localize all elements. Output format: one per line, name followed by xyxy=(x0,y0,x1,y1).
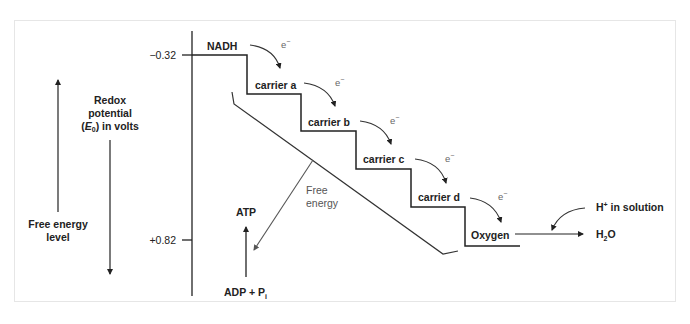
electron-arrow-5: e− xyxy=(470,190,507,222)
step-carrier-b: carrier b xyxy=(308,116,350,128)
electron-arrow-2: e− xyxy=(304,76,344,106)
free-energy-label-1: Free xyxy=(306,184,328,196)
tick-label-top: −0.32 xyxy=(149,49,176,61)
etc-diagram: Free energy level Redox potential (E0) i… xyxy=(0,0,690,324)
redox-label-1: Redox xyxy=(94,94,126,106)
electron-arrow-3: e− xyxy=(360,114,399,144)
step-carrier-d: carrier d xyxy=(418,191,460,203)
svg-text:e−: e− xyxy=(390,114,399,126)
free-energy-level-label-2: level xyxy=(46,231,69,243)
svg-text:e−: e− xyxy=(281,38,290,50)
adp-pi-label: ADP + Pi xyxy=(224,286,267,300)
tick-label-bottom: +0.82 xyxy=(149,234,176,246)
svg-text:e−: e− xyxy=(335,76,344,88)
electron-arrow-4: e− xyxy=(415,152,454,183)
svg-text:e−: e− xyxy=(498,190,507,202)
free-energy-arrow xyxy=(254,160,313,250)
electron-arrow-1: e− xyxy=(250,38,290,68)
step-carrier-c: carrier c xyxy=(363,153,405,165)
step-carrier-a: carrier a xyxy=(255,79,297,91)
svg-text:e−: e− xyxy=(445,152,454,164)
water-label: H2O xyxy=(596,228,616,242)
redox-label-2: potential xyxy=(88,107,132,119)
atp-label: ATP xyxy=(236,206,256,218)
step-oxygen: Oxygen xyxy=(471,229,510,241)
free-energy-label-2: energy xyxy=(306,197,339,209)
h-plus-label: H+ in solution xyxy=(596,201,664,213)
h-plus-arrow xyxy=(552,208,585,230)
free-energy-level-label-1: Free energy xyxy=(28,218,88,230)
step-nadh: NADH xyxy=(207,40,237,52)
redox-label-3: (E0) in volts xyxy=(81,120,139,133)
